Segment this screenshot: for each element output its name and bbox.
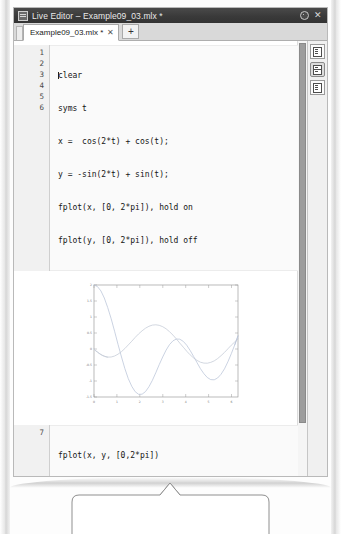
code-line: fplot(x, [0, 2*pi]), hold on <box>58 203 193 212</box>
code-line: x = cos(2*t) + cos(t); <box>58 137 169 146</box>
code-line: clear <box>58 71 82 80</box>
line-number-gutter-1: 1 2 3 4 5 6 <box>14 45 50 271</box>
undock-icon <box>300 11 309 20</box>
document-icon <box>18 11 28 21</box>
cell-spacer <box>14 414 298 425</box>
svg-text:0.5: 0.5 <box>87 331 92 335</box>
vertical-scrollbar[interactable] <box>297 41 307 476</box>
page-edge-left <box>0 0 10 534</box>
page-edge-right <box>331 0 341 534</box>
svg-text:1: 1 <box>116 400 118 404</box>
svg-text:1.5: 1.5 <box>87 299 92 303</box>
new-tab-button[interactable]: + <box>122 24 139 39</box>
side-layout-icon <box>313 65 322 75</box>
svg-text:1: 1 <box>90 315 92 319</box>
svg-text:-1: -1 <box>89 379 92 383</box>
tab-label: Example09_03.mlx * <box>30 28 103 37</box>
window-title: Live Editor – Example09_03.mlx * <box>32 11 163 21</box>
line-number: 5 <box>14 91 44 102</box>
line-number: 7 <box>14 427 44 438</box>
line-number: 6 <box>14 102 44 113</box>
line-number: 2 <box>14 58 44 69</box>
svg-text:-0.5: -0.5 <box>86 363 92 367</box>
callout-area <box>0 477 341 534</box>
tab-close-icon[interactable]: ✕ <box>107 28 114 37</box>
figure-1-plot[interactable]: 2 1.5 1 0.5 0 -0.5 -1 -1.5 <box>68 280 244 408</box>
output-view-rail <box>307 41 327 476</box>
document-content: 1 2 3 4 5 6 clear syms t x = cos(2*t) + … <box>14 41 298 476</box>
hidden-layout-icon <box>313 83 322 93</box>
scrollbar-thumb[interactable] <box>299 43 306 423</box>
svg-text:2: 2 <box>90 283 92 287</box>
line-number: 3 <box>14 69 44 80</box>
live-editor-window: Live Editor – Example09_03.mlx * ✕ Examp… <box>13 7 328 477</box>
figure-1-wrapper: 2 1.5 1 0.5 0 -0.5 -1 -1.5 <box>14 271 298 414</box>
svg-text:3: 3 <box>162 400 164 404</box>
tab-strip: Example09_03.mlx * ✕ + <box>14 23 327 41</box>
svg-text:0: 0 <box>90 347 92 351</box>
window-titlebar[interactable]: Live Editor – Example09_03.mlx * ✕ <box>14 8 327 23</box>
svg-text:4: 4 <box>185 400 187 404</box>
code-line: syms t <box>58 104 87 113</box>
view-output-inline-button[interactable] <box>310 44 325 59</box>
callout-shape <box>0 477 341 534</box>
close-button[interactable]: ✕ <box>311 9 324 22</box>
svg-text:6: 6 <box>231 400 233 404</box>
document-body: 1 2 3 4 5 6 clear syms t x = cos(2*t) + … <box>14 41 327 476</box>
svg-text:2: 2 <box>139 400 141 404</box>
code-cell-1[interactable]: 1 2 3 4 5 6 clear syms t x = cos(2*t) + … <box>14 45 298 271</box>
code-cell-2[interactable]: 7 fplot(x, y, [0,2*pi]) <box>14 425 298 476</box>
tab-example09-03[interactable]: Example09_03.mlx * ✕ <box>23 24 119 41</box>
code-line: fplot(x, y, [0,2*pi]) <box>58 451 159 460</box>
code-line: fplot(y, [0, 2*pi]), hold off <box>58 236 198 245</box>
svg-text:5: 5 <box>208 400 210 404</box>
view-output-right-button[interactable] <box>310 62 325 77</box>
code-editor-2[interactable]: fplot(x, y, [0,2*pi]) <box>50 425 298 476</box>
line-number: 4 <box>14 80 44 91</box>
tab-drag-handle[interactable] <box>16 26 23 40</box>
code-line: y = -sin(2*t) + sin(t); <box>58 170 169 179</box>
undock-button[interactable] <box>298 9 311 22</box>
svg-text:0: 0 <box>93 400 95 404</box>
view-output-hidden-button[interactable] <box>310 80 325 95</box>
code-editor-1[interactable]: clear syms t x = cos(2*t) + cos(t); y = … <box>50 45 298 271</box>
inline-layout-icon <box>313 47 322 57</box>
svg-text:-1.5: -1.5 <box>86 395 92 399</box>
line-number-gutter-2: 7 <box>14 425 50 476</box>
scanned-page: Live Editor – Example09_03.mlx * ✕ Examp… <box>0 0 341 534</box>
line-number: 1 <box>14 47 44 58</box>
